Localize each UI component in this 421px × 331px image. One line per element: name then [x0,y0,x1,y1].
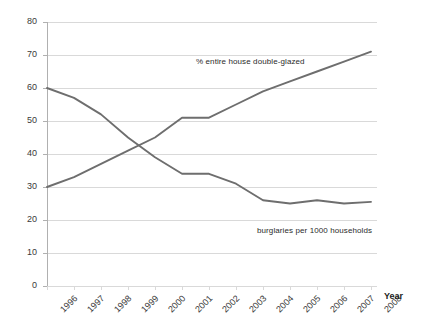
y-axis-tick-label: 60 [15,83,37,92]
y-axis-tick-label: 10 [15,248,37,257]
series-annotation-double-glazed: % entire house double-glazed [196,57,305,66]
y-axis-tick-label: 70 [15,50,37,59]
y-axis-tick-label: 80 [15,17,37,26]
series-line-0 [47,52,371,187]
y-axis-tick-label: 40 [15,149,37,158]
y-axis-tick-label: 30 [15,182,37,191]
series-annotation-burglaries: burglaries per 1000 households [257,226,372,235]
chart-canvas [0,0,421,331]
y-axis-tick-label: 20 [15,215,37,224]
x-axis-title: Year [384,291,403,301]
y-axis-tick-label: 0 [15,281,37,290]
series-lines [47,52,371,204]
line-chart: 01020304050607080 1996199719981999200020… [0,0,421,331]
y-axis-tick-label: 50 [15,116,37,125]
series-line-1 [47,88,371,204]
